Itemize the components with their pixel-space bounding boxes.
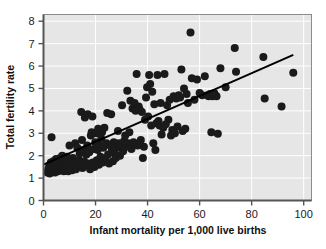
x-axis-title: Infant mortality per 1,000 live births: [90, 224, 267, 236]
y-tick-label: 5: [28, 82, 34, 94]
y-tick-label: 6: [28, 60, 34, 72]
x-tick-label: 20: [89, 208, 101, 220]
y-tick-label: 8: [28, 15, 34, 27]
x-tick-label: 40: [141, 208, 153, 220]
plot-area-background: [44, 15, 312, 201]
x-tick-label: 60: [193, 208, 205, 220]
y-tick-label: 7: [28, 38, 34, 50]
x-tick-label: 100: [295, 208, 313, 220]
y-tick-label: 1: [28, 172, 34, 184]
y-tick-label: 3: [28, 127, 34, 139]
y-axis-title: Total fertility rate: [4, 65, 16, 150]
y-tick-label: 0: [28, 195, 34, 207]
scatter-plot-figure: 020406080100 012345678 Infant mortality …: [0, 0, 326, 249]
x-tick-label: 0: [40, 208, 46, 220]
chart-canvas: 020406080100 012345678 Infant mortality …: [0, 0, 326, 249]
y-tick-label: 2: [28, 150, 34, 162]
x-tick-label: 80: [246, 208, 258, 220]
y-tick-label: 4: [28, 105, 34, 117]
